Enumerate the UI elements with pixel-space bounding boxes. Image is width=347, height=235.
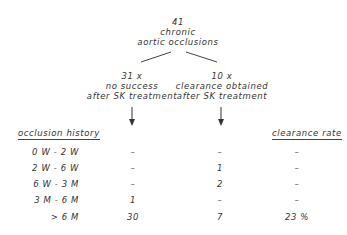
- no-success-value: 30: [127, 212, 139, 222]
- root-count: 41: [172, 17, 184, 27]
- branch-line-right: [186, 52, 217, 62]
- arrow-down-icon: [129, 107, 135, 126]
- branch-count: 10 x: [212, 71, 233, 81]
- no-success-value: –: [131, 163, 136, 173]
- no-success-value: –: [131, 147, 136, 157]
- row-label: 6 W - 3 M: [33, 179, 79, 189]
- occlusion-history-header: occlusion history: [18, 128, 100, 140]
- row-label: 3 M - 6 M: [34, 195, 79, 205]
- branch-line-left: [141, 52, 171, 62]
- row-label: > 6 M: [51, 212, 79, 222]
- cleared-value: –: [218, 147, 223, 157]
- no-success-value: 1: [130, 195, 136, 205]
- rate-value: –: [295, 195, 300, 205]
- rate-value: –: [295, 147, 300, 157]
- branch-count: 31 x: [122, 71, 143, 81]
- rate-value: –: [295, 163, 300, 173]
- root-line1: chronic: [160, 27, 195, 37]
- cleared-value: –: [218, 195, 223, 205]
- cleared-value: 2: [217, 179, 223, 189]
- no-success-value: –: [131, 179, 136, 189]
- row-label: 2 W - 6 W: [32, 163, 79, 173]
- branch-line2: after SK treatment: [177, 91, 267, 101]
- branch-line1: no success: [106, 81, 159, 91]
- rate-value: 23 %: [285, 212, 309, 222]
- row-label: 0 W - 2 W: [32, 147, 79, 157]
- cleared-value: 1: [217, 163, 223, 173]
- arrow-down-icon: [218, 107, 224, 126]
- branch-line2: after SK treatment: [87, 91, 177, 101]
- root-line2: aortic occlusions: [137, 37, 218, 47]
- cleared-value: 7: [217, 212, 223, 222]
- rate-value: –: [295, 179, 300, 189]
- clearance-rate-header: clearance rate: [272, 128, 342, 140]
- branch-line1: clearance obtained: [176, 81, 268, 91]
